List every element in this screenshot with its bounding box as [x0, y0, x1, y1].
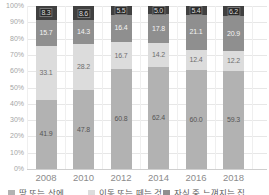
x-category-label: 2008: [29, 172, 63, 183]
bar-segment: 60.0: [186, 70, 207, 169]
bar-segment: 14.2: [148, 43, 169, 66]
legend-item-label: 땅 또는 산에: [19, 188, 64, 195]
data-label: 5.4: [189, 6, 202, 15]
legend-item-label: 자식 중 느껴지는 집: [174, 188, 245, 195]
gridline-vertical: [215, 6, 216, 169]
y-tick-label: 60%: [0, 67, 24, 75]
stacked-bar-chart: 41.933.115.78.347.828.214.38.660.816.716…: [0, 0, 269, 195]
bar-segment: 28.2: [73, 44, 94, 90]
y-tick-label: 10%: [0, 149, 24, 157]
data-label: 16.4: [111, 24, 132, 32]
data-label: 60.0: [186, 116, 207, 124]
y-tick-label: 100%: [0, 2, 24, 10]
y-tick-label: 80%: [0, 35, 24, 43]
data-label: 60.8: [111, 115, 132, 123]
data-label: 14.3: [73, 28, 94, 36]
legend-item-label: 이동 또는 떼는 것: [99, 188, 162, 195]
y-tick-label: 90%: [0, 18, 24, 26]
data-label: 59.3: [223, 116, 244, 124]
chart-legend: 땅 또는 산에이동 또는 떼는 것자식 중 느껴지는 집: [0, 188, 269, 195]
legend-marker-swatch: [8, 190, 15, 195]
data-label: 14.2: [148, 51, 169, 59]
gridline-vertical: [102, 6, 103, 169]
y-tick-label: 30%: [0, 116, 24, 124]
bar-segment: 5.5: [111, 6, 132, 15]
bar-segment: 47.8: [73, 90, 94, 169]
legend-marker-swatch: [88, 190, 95, 195]
data-label: 12.2: [223, 57, 244, 65]
bar-segment: 41.9: [36, 100, 57, 169]
bar-segment: 21.1: [186, 15, 207, 50]
y-tick-label: 70%: [0, 51, 24, 59]
data-label: 21.1: [186, 28, 207, 36]
bar-segment: 60.8: [111, 69, 132, 169]
bar-segment: 5.0: [148, 6, 169, 14]
legend-item: 자식 중 느껴지는 집: [163, 188, 245, 195]
gridline-horizontal: [27, 169, 267, 170]
legend-item: 이동 또는 떼는 것: [88, 188, 162, 195]
gridline-vertical: [252, 6, 253, 169]
y-tick-label: 20%: [0, 132, 24, 140]
x-category-label: 2014: [142, 172, 176, 183]
bar-segment: 59.3: [223, 71, 244, 169]
data-label: 20.9: [223, 30, 244, 38]
data-label: 62.4: [148, 114, 169, 122]
bar-segment: 12.2: [223, 51, 244, 71]
data-label: 33.1: [36, 69, 57, 77]
data-label: 12.4: [186, 56, 207, 64]
gridline-vertical: [27, 6, 28, 169]
bar-segment: 62.4: [148, 67, 169, 169]
x-category-label: 2012: [104, 172, 138, 183]
bar-segment: 16.7: [111, 42, 132, 69]
bar-segment: 14.3: [73, 20, 94, 44]
bar-segment: 5.4: [186, 6, 207, 15]
gridline-vertical: [65, 6, 66, 169]
bar-segment: 8.3: [36, 6, 57, 20]
data-label: 5.5: [114, 6, 127, 15]
bar-segment: 33.1: [36, 46, 57, 100]
data-label: 6.2: [227, 7, 240, 16]
y-tick-label: 40%: [0, 100, 24, 108]
bar-segment: 8.6: [73, 6, 94, 20]
data-label: 8.3: [39, 8, 52, 17]
data-label: 16.7: [111, 52, 132, 60]
gridline-vertical: [140, 6, 141, 169]
data-label: 17.8: [148, 25, 169, 33]
gridline-vertical: [177, 6, 178, 169]
data-label: 8.6: [77, 9, 90, 18]
y-tick-label: 50%: [0, 84, 24, 92]
bar-segment: 20.9: [223, 16, 244, 51]
bar-segment: 15.7: [36, 20, 57, 46]
data-label: 15.7: [36, 29, 57, 37]
data-label: 47.8: [73, 126, 94, 134]
bar-segment: 17.8: [148, 14, 169, 43]
legend-marker-swatch: [163, 190, 170, 195]
data-label: 41.9: [36, 130, 57, 138]
bar-segment: 16.4: [111, 15, 132, 42]
x-category-label: 2016: [179, 172, 213, 183]
x-category-label: 2018: [217, 172, 251, 183]
x-category-label: 2010: [67, 172, 101, 183]
bar-segment: 6.2: [223, 6, 244, 16]
y-tick-label: 0%: [0, 165, 24, 173]
data-label: 5.0: [152, 6, 165, 15]
legend-item: 땅 또는 산에: [8, 188, 64, 195]
bar-segment: 12.4: [186, 50, 207, 70]
data-label: 28.2: [73, 63, 94, 71]
